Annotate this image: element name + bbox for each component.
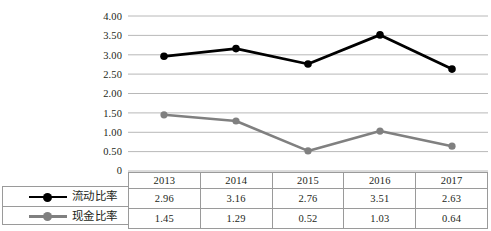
table-cell: 2.63 bbox=[416, 189, 488, 209]
table-cell: 0.52 bbox=[272, 209, 344, 229]
series-cash-ratio bbox=[160, 111, 455, 154]
legend-item-cash-ratio[interactable]: 现金比率 bbox=[3, 206, 128, 225]
table-header-cell: 2017 bbox=[416, 173, 488, 189]
table-header-row: 2013 2014 2015 2016 2017 bbox=[129, 173, 488, 189]
legend-marker-line-dot-icon bbox=[29, 210, 67, 222]
table-cell: 1.03 bbox=[344, 209, 416, 229]
table-row: 2.96 3.16 2.76 3.51 2.63 bbox=[129, 189, 488, 209]
table-cell: 3.16 bbox=[200, 189, 272, 209]
legend-item-current-ratio[interactable]: 流动比率 bbox=[3, 187, 128, 206]
table-header-cell: 2015 bbox=[272, 173, 344, 189]
table-header-cell: 2013 bbox=[129, 173, 201, 189]
table-cell: 1.45 bbox=[129, 209, 201, 229]
data-table: 2013 2014 2015 2016 2017 2.96 3.16 2.76 … bbox=[128, 172, 488, 229]
chart-data-table-block: 流动比率 现金比率 2013 2014 2015 2016 2017 bbox=[0, 171, 491, 231]
chart-page: 4.00 3.50 3.00 2.50 2.00 1.50 1.00 0.50 … bbox=[0, 0, 491, 231]
table-header-cell: 2014 bbox=[200, 173, 272, 189]
table-row: 1.45 1.29 0.52 1.03 0.64 bbox=[129, 209, 488, 229]
legend-label-cash-ratio: 现金比率 bbox=[72, 210, 117, 223]
chart-legend: 流动比率 现金比率 bbox=[2, 186, 128, 225]
table-cell: 1.29 bbox=[200, 209, 272, 229]
line-chart: 4.00 3.50 3.00 2.50 2.00 1.50 1.00 0.50 … bbox=[0, 0, 491, 172]
legend-marker-line-dot-icon bbox=[29, 191, 67, 203]
table-cell: 3.51 bbox=[344, 189, 416, 209]
table-cell: 2.96 bbox=[129, 189, 201, 209]
plot-svg bbox=[0, 0, 491, 172]
series-current-ratio bbox=[160, 31, 456, 73]
table-cell: 0.64 bbox=[416, 209, 488, 229]
table-header-cell: 2016 bbox=[344, 173, 416, 189]
table-cell: 2.76 bbox=[272, 189, 344, 209]
legend-label-current-ratio: 流动比率 bbox=[72, 190, 117, 203]
